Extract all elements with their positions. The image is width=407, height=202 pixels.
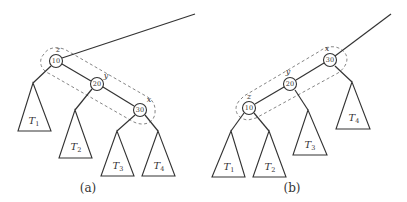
edge-x-t4 [335,66,352,82]
subtree-t1: T1 [212,131,245,177]
subtree-t1: T1 [18,83,51,131]
edge-x-y [296,63,324,80]
panel-a: T1 T2 T3 T4 10 z 20 y 30 x ( [18,14,195,195]
parent-edge [335,14,391,56]
caption-a: (a) [80,181,97,195]
subtree-t4: T4 [336,82,370,129]
svg-text:30: 30 [326,56,334,64]
panel-b: T1 T2 T3 T4 30 x 20 y 10 z ( [212,14,391,195]
edge-x-t4 [145,115,158,131]
svg-text:20: 20 [93,80,101,88]
svg-text:z: z [55,45,61,54]
svg-text:y: y [103,71,109,80]
node-x: 30 x [134,95,152,117]
diagram-canvas: T1 T2 T3 T4 10 z 20 y 30 x ( [0,0,407,202]
edge-y-x [103,87,134,106]
node-y: 20 y [284,67,297,91]
caption-b: (b) [283,181,300,195]
svg-text:z: z [246,92,252,101]
edge-y-t3 [295,90,308,110]
svg-text:10: 10 [245,104,253,112]
edge-z-y [62,64,91,81]
svg-text:x: x [147,95,152,104]
subtree-t3: T3 [101,131,134,176]
edge-z-t1 [231,113,244,131]
subtree-t3: T3 [293,110,327,155]
svg-text:20: 20 [286,80,294,88]
parent-edge [62,14,195,58]
svg-text:y: y [285,67,291,76]
edge-y-t2 [75,89,92,110]
node-y: 20 y [91,71,109,91]
subtree-t2: T2 [59,110,92,158]
node-z: 10 z [243,92,256,115]
edge-y-z [255,87,284,104]
subtree-t4: T4 [142,131,175,176]
svg-text:30: 30 [136,106,144,114]
edge-z-t1 [33,66,51,83]
svg-text:x: x [325,44,330,53]
svg-text:10: 10 [52,57,60,65]
edge-z-t2 [254,113,269,131]
node-x: 30 x [324,44,337,67]
subtree-t2: T2 [253,131,286,177]
